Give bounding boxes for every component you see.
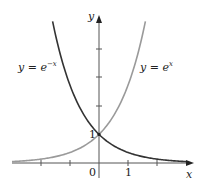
label-exp-neg-x: y = e−x	[17, 60, 57, 74]
intersection-point	[97, 133, 100, 136]
origin-label: 0	[89, 166, 96, 179]
x-axis-arrow-icon	[186, 160, 194, 166]
y-axis-arrow-icon	[96, 15, 102, 23]
x-tick-label-1: 1	[125, 166, 132, 179]
x-axis-label: x	[186, 168, 193, 181]
exponential-chart: y x 0 1 1 y = e−x y = ex	[0, 0, 206, 194]
label-exp-x: y = ex	[139, 60, 173, 74]
curve-exp-x	[12, 21, 145, 161]
y-axis-label: y	[87, 10, 95, 23]
curve-exp-neg-x	[53, 21, 186, 161]
y-tick-label-1: 1	[89, 128, 96, 141]
